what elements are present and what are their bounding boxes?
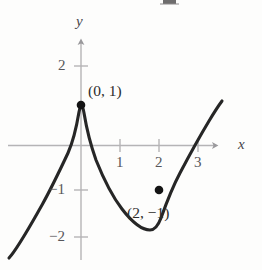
y-tick-label-2: 2: [58, 58, 66, 73]
y-tick-label-minus-1: −1: [49, 182, 65, 197]
x-axis-label: x: [238, 137, 245, 152]
minimum-point-label: (2, −1): [127, 205, 169, 221]
plot-canvas: [0, 0, 262, 270]
graph-figure: y x 2 −1 −2 1 2 3 (0, 1) (2, −1): [0, 0, 262, 270]
y-axis-label: y: [76, 14, 83, 29]
x-tick-label-2: 2: [155, 155, 163, 170]
cosine-curve: [9, 101, 222, 258]
maximum-point-label: (0, 1): [88, 83, 122, 99]
x-tick-label-1: 1: [116, 155, 124, 170]
maximum-point-marker: [77, 101, 86, 110]
x-tick-label-3: 3: [194, 155, 202, 170]
minimum-point-marker: [155, 186, 164, 195]
y-tick-label-minus-2: −2: [49, 229, 65, 244]
